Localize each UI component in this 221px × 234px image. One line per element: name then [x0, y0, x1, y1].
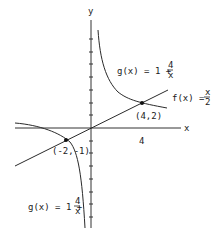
point-neg2-neg1 — [64, 138, 68, 142]
g-upper-label: g(x) = 1 + 4 x — [117, 60, 174, 80]
g-lower-label: g(x) = 1 + 4 x — [28, 196, 83, 216]
y-axis-label: y — [88, 6, 94, 16]
svg-text:x: x — [168, 70, 174, 80]
svg-text:4: 4 — [168, 60, 173, 70]
svg-text:f(x) =: f(x) = — [172, 93, 205, 103]
svg-text:2: 2 — [205, 97, 210, 107]
graph-diagram: y x 4 (4,2) (-2,-1) g(x) = 1 + 4 x f(x) … — [0, 0, 221, 234]
svg-text:x: x — [205, 87, 211, 97]
f-label: f(x) = x 2 — [172, 87, 211, 107]
svg-text:4: 4 — [75, 196, 80, 206]
svg-text:g(x) = 1 +: g(x) = 1 + — [117, 66, 172, 76]
point-label-4-2: (4,2) — [135, 111, 162, 121]
svg-text:x: x — [75, 206, 81, 216]
x-axis-label: x — [184, 123, 190, 133]
point-label-neg2-neg1: (-2,-1) — [52, 146, 90, 156]
x-tick-label-4: 4 — [139, 136, 144, 146]
point-4-2 — [140, 101, 144, 105]
